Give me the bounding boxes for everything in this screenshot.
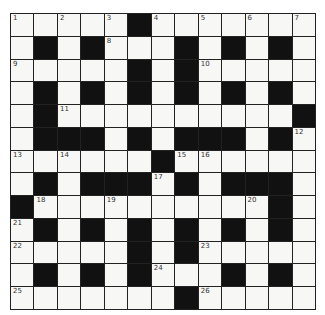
- grid-cell[interactable]: [269, 287, 291, 309]
- grid-cell[interactable]: 18: [34, 196, 56, 218]
- grid-cell[interactable]: 15: [175, 151, 197, 173]
- grid-cell[interactable]: [246, 60, 268, 82]
- grid-cell[interactable]: [175, 264, 197, 286]
- grid-cell[interactable]: 2: [58, 14, 80, 36]
- grid-cell[interactable]: [269, 105, 291, 127]
- grid-cell[interactable]: 5: [199, 14, 221, 36]
- grid-cell[interactable]: [34, 287, 56, 309]
- grid-cell[interactable]: [222, 287, 244, 309]
- grid-cell[interactable]: [11, 264, 33, 286]
- grid-cell[interactable]: [152, 82, 174, 104]
- grid-cell[interactable]: [152, 196, 174, 218]
- grid-cell[interactable]: [293, 173, 315, 195]
- grid-cell[interactable]: [128, 151, 150, 173]
- grid-cell[interactable]: 20: [246, 196, 268, 218]
- grid-cell[interactable]: [128, 287, 150, 309]
- grid-cell[interactable]: [222, 196, 244, 218]
- grid-cell[interactable]: [269, 60, 291, 82]
- grid-cell[interactable]: [152, 37, 174, 59]
- grid-cell[interactable]: [128, 105, 150, 127]
- grid-cell[interactable]: [293, 60, 315, 82]
- grid-cell[interactable]: [222, 105, 244, 127]
- grid-cell[interactable]: [81, 105, 103, 127]
- grid-cell[interactable]: [105, 242, 127, 264]
- grid-cell[interactable]: [81, 60, 103, 82]
- grid-cell[interactable]: [34, 151, 56, 173]
- grid-cell[interactable]: [222, 60, 244, 82]
- grid-cell[interactable]: 4: [152, 14, 174, 36]
- grid-cell[interactable]: [58, 219, 80, 241]
- grid-cell[interactable]: [105, 105, 127, 127]
- grid-cell[interactable]: [293, 264, 315, 286]
- grid-cell[interactable]: 3: [105, 14, 127, 36]
- grid-cell[interactable]: [246, 37, 268, 59]
- grid-cell[interactable]: [246, 82, 268, 104]
- grid-cell[interactable]: [152, 128, 174, 150]
- grid-cell[interactable]: [105, 151, 127, 173]
- grid-cell[interactable]: [199, 219, 221, 241]
- grid-cell[interactable]: [269, 151, 291, 173]
- grid-cell[interactable]: 12: [293, 128, 315, 150]
- grid-cell[interactable]: [11, 37, 33, 59]
- grid-cell[interactable]: 19: [105, 196, 127, 218]
- grid-cell[interactable]: [293, 151, 315, 173]
- grid-cell[interactable]: [246, 128, 268, 150]
- grid-cell[interactable]: [34, 242, 56, 264]
- grid-cell[interactable]: [152, 219, 174, 241]
- grid-cell[interactable]: [222, 242, 244, 264]
- grid-cell[interactable]: [293, 37, 315, 59]
- grid-cell[interactable]: [128, 196, 150, 218]
- grid-cell[interactable]: [222, 151, 244, 173]
- grid-cell[interactable]: [81, 242, 103, 264]
- grid-cell[interactable]: 25: [11, 287, 33, 309]
- grid-cell[interactable]: [58, 37, 80, 59]
- grid-cell[interactable]: [11, 173, 33, 195]
- grid-cell[interactable]: [58, 82, 80, 104]
- grid-cell[interactable]: [58, 60, 80, 82]
- grid-cell[interactable]: [58, 242, 80, 264]
- grid-cell[interactable]: [175, 14, 197, 36]
- grid-cell[interactable]: [293, 82, 315, 104]
- grid-cell[interactable]: [199, 264, 221, 286]
- grid-cell[interactable]: 7: [293, 14, 315, 36]
- grid-cell[interactable]: 23: [199, 242, 221, 264]
- grid-cell[interactable]: [34, 14, 56, 36]
- grid-cell[interactable]: [293, 287, 315, 309]
- grid-cell[interactable]: 13: [11, 151, 33, 173]
- grid-cell[interactable]: [293, 219, 315, 241]
- grid-cell[interactable]: [222, 14, 244, 36]
- grid-cell[interactable]: 11: [58, 105, 80, 127]
- grid-cell[interactable]: [152, 287, 174, 309]
- grid-cell[interactable]: [199, 196, 221, 218]
- grid-cell[interactable]: [11, 82, 33, 104]
- grid-cell[interactable]: 8: [105, 37, 127, 59]
- grid-cell[interactable]: [81, 196, 103, 218]
- grid-cell[interactable]: [128, 37, 150, 59]
- grid-cell[interactable]: [58, 173, 80, 195]
- grid-cell[interactable]: [34, 60, 56, 82]
- grid-cell[interactable]: [152, 105, 174, 127]
- grid-cell[interactable]: [246, 287, 268, 309]
- grid-cell[interactable]: [293, 196, 315, 218]
- grid-cell[interactable]: 22: [11, 242, 33, 264]
- grid-cell[interactable]: 17: [152, 173, 174, 195]
- grid-cell[interactable]: [105, 264, 127, 286]
- grid-cell[interactable]: 14: [58, 151, 80, 173]
- grid-cell[interactable]: [105, 128, 127, 150]
- grid-cell[interactable]: [105, 82, 127, 104]
- grid-cell[interactable]: [81, 287, 103, 309]
- grid-cell[interactable]: [152, 242, 174, 264]
- grid-cell[interactable]: [175, 196, 197, 218]
- grid-cell[interactable]: [81, 14, 103, 36]
- grid-cell[interactable]: [269, 242, 291, 264]
- grid-cell[interactable]: [105, 287, 127, 309]
- grid-cell[interactable]: 21: [11, 219, 33, 241]
- grid-cell[interactable]: 6: [246, 14, 268, 36]
- grid-cell[interactable]: [199, 105, 221, 127]
- grid-cell[interactable]: [246, 219, 268, 241]
- grid-cell[interactable]: 10: [199, 60, 221, 82]
- grid-cell[interactable]: 24: [152, 264, 174, 286]
- grid-cell[interactable]: [11, 105, 33, 127]
- grid-cell[interactable]: [152, 60, 174, 82]
- grid-cell[interactable]: 9: [11, 60, 33, 82]
